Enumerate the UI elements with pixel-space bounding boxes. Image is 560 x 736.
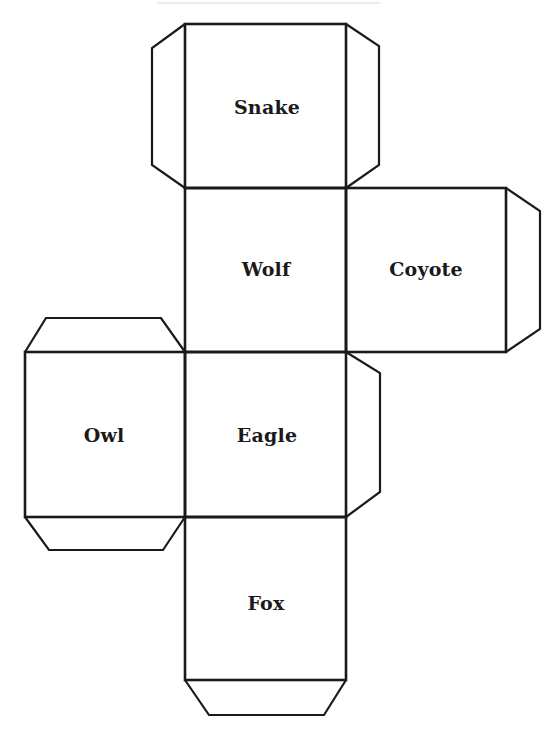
face-label-eagle: Eagle <box>237 424 297 446</box>
coyote-right-tab <box>506 188 540 352</box>
snake-right-tab <box>346 24 379 188</box>
eagle-right-tab <box>346 352 380 517</box>
face-label-coyote: Coyote <box>389 258 463 280</box>
face-label-snake: Snake <box>234 96 300 118</box>
face-label-owl: Owl <box>84 424 125 446</box>
cube-net-diagram: Snake Wolf Coyote Owl Eagle Fox <box>0 0 560 736</box>
cube-faces <box>25 24 506 680</box>
snake-left-tab <box>152 24 185 188</box>
face-label-fox: Fox <box>247 592 284 614</box>
owl-top-tab <box>25 318 185 352</box>
fox-bottom-tab <box>185 680 346 715</box>
owl-bottom-tab <box>25 517 185 550</box>
face-label-wolf: Wolf <box>242 258 291 280</box>
